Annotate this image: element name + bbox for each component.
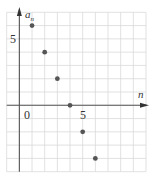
grid: [7, 12, 146, 171]
y-tick-label-5: 5: [10, 33, 16, 45]
axes: [7, 7, 149, 172]
origin-tick-label: 0: [24, 109, 30, 121]
x-axis-arrow-icon: [140, 103, 149, 108]
data-point: [42, 50, 47, 55]
y-axis-label-subscript: n: [31, 15, 35, 23]
data-point: [55, 76, 60, 81]
data-point: [68, 103, 73, 108]
data-point: [80, 129, 85, 134]
data-point: [30, 23, 35, 28]
y-axis-label: an: [25, 8, 34, 22]
y-axis-label-main: a: [25, 8, 31, 20]
x-tick-label-5: 5: [80, 109, 86, 121]
scatter-plot: [0, 0, 156, 182]
y-axis-arrow-icon: [17, 7, 22, 16]
data-point: [93, 156, 98, 161]
x-axis-label: n: [138, 88, 144, 100]
